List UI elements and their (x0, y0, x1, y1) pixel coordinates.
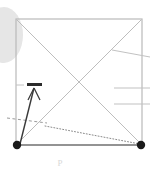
support-node-left (13, 141, 21, 149)
support-node-right (137, 141, 145, 149)
background-ellipse (0, 7, 23, 63)
figure-caption: P (30, 158, 90, 168)
force-arrow-shaft (20, 88, 34, 144)
figure-container: P (0, 0, 153, 169)
tick-diagonal-top-right (112, 50, 150, 57)
technical-diagram (0, 0, 153, 169)
load-bar (27, 83, 42, 86)
force-arrow-head-right (34, 88, 40, 100)
